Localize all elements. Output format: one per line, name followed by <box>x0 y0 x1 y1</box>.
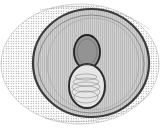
wireframe-figure <box>0 0 162 131</box>
core-body <box>69 35 105 108</box>
